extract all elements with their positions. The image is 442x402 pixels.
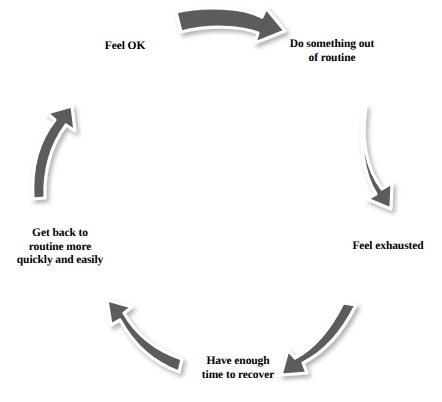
step-label-have-enough-time-to-recover: Have enough time to recover [178,355,298,382]
cycle-diagram: Do something out of routine Feel exhaust… [0,0,442,402]
arrow-bottom-left-have-enough-to-get-back [107,300,182,372]
arrow-right-do-something-to-feel-exhausted [362,106,392,209]
step-label-do-something: Do something out of routine [272,38,392,65]
step-label-feel-exhausted: Feel exhausted [333,240,442,254]
arrow-left-get-back-to-feel-ok [33,106,75,199]
step-label-feel-ok: Feel OK [80,40,170,54]
arrow-top-feel-ok-to-do-something [176,8,285,43]
step-label-get-back-to-routine: Get back to routine more quickly and eas… [0,227,124,268]
bottom-page-artifact [0,392,442,402]
